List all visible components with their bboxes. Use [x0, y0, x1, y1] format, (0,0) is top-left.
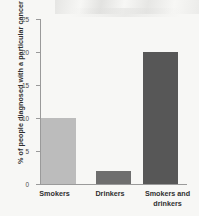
scan-artifact-top	[55, 0, 199, 14]
y-tick-label-10: 10	[22, 115, 29, 122]
bar-drinkers	[96, 171, 131, 184]
y-tick-label-15: 15	[22, 82, 29, 89]
plot-area: 25 20 15 10 5 0	[41, 19, 186, 184]
y-tick-label-5: 5	[25, 148, 29, 155]
bar-smokers	[41, 118, 76, 184]
scan-artifact-top-2	[70, 8, 180, 17]
x-axis-line	[40, 184, 187, 185]
y-tick-label-0: 0	[25, 181, 29, 188]
bar-smokers-and-drinkers	[143, 52, 178, 184]
x-label-smokers: Smokers	[28, 189, 81, 199]
y-tick-20: 20	[36, 52, 40, 53]
y-tick-5: 5	[36, 151, 40, 152]
y-tick-0: 0	[36, 184, 40, 185]
x-label-drinkers: Drinkers	[85, 189, 135, 199]
y-tick-label-20: 20	[22, 49, 29, 56]
x-axis-labels: Smokers Drinkers Smokers and drinkers	[28, 189, 199, 216]
y-tick-15: 15	[36, 85, 40, 86]
x-label-drinkers-line1: Drinkers	[95, 189, 124, 198]
x-label-smokers-and-drinkers-line2: drinkers	[153, 199, 181, 208]
bar-chart: % of people diagnosed with a particular …	[0, 0, 199, 216]
y-tick-label-25: 25	[22, 16, 29, 23]
x-label-smokers-line1: Smokers	[39, 189, 69, 198]
x-label-smokers-and-drinkers: Smokers and drinkers	[136, 189, 199, 208]
y-tick-10: 10	[36, 118, 40, 119]
y-tick-25: 25	[36, 19, 40, 20]
x-label-smokers-and-drinkers-line1: Smokers and	[145, 189, 190, 198]
